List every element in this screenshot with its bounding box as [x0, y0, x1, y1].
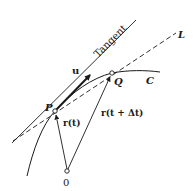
position-p-label: r(t): [63, 118, 80, 128]
curve-c: [27, 71, 160, 176]
point-p-marker: [53, 109, 57, 113]
point-q-label: Q: [114, 76, 123, 87]
position-q-label: r(t + Δt): [101, 108, 143, 118]
point-q-marker: [110, 71, 114, 75]
unit-tangent-label: u: [72, 65, 79, 76]
origin-label: 0: [63, 177, 69, 188]
origin-marker: [65, 169, 69, 173]
tangent-diagram: Tangent L C u P Q 0 r(t) r(t + Δt): [0, 0, 194, 191]
curve-label: C: [146, 75, 154, 86]
unit-tangent-vector: [55, 75, 90, 111]
secant-line-label: L: [177, 29, 185, 40]
tangent-label: Tangent: [92, 23, 129, 60]
point-p-label: P: [44, 102, 53, 113]
